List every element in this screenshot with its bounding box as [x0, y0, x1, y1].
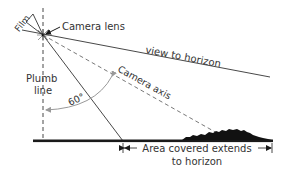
area-left-arrowhead [124, 145, 130, 151]
plumb-line-label-2: line [34, 85, 52, 96]
terrain-silhouette [182, 129, 272, 140]
view-to-horizon-label: view to horizon [145, 44, 222, 69]
area-covered-label-2: to horizon [172, 156, 222, 167]
plumb-line-label-1: Plumb [26, 73, 57, 84]
area-covered-label-1: Area covered extends [142, 143, 251, 154]
film-label: Film [13, 13, 32, 34]
camera-lens-label: Camera lens [62, 21, 125, 32]
camera-axis-label: Camera axis [116, 63, 173, 101]
camera-axis-line [43, 35, 217, 133]
oblique-photo-diagram: Film Camera lens view to horizon Camera … [0, 0, 289, 172]
angle-label: 60° [66, 91, 86, 108]
camera-lens-pointer [46, 27, 60, 34]
coverage-edge-line [43, 35, 123, 141]
